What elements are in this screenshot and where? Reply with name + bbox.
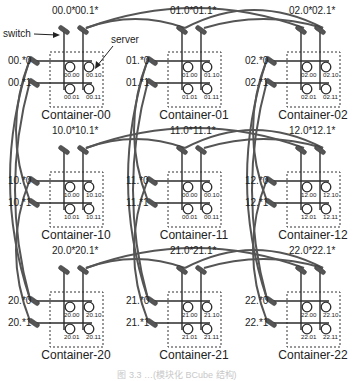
- server-label: 01.11: [204, 93, 220, 100]
- server-label: 21.11: [204, 333, 220, 340]
- server-label: 00.00: [64, 71, 80, 78]
- server-label: 20.00: [64, 311, 80, 318]
- server-label: 10.01: [64, 213, 80, 220]
- figure-caption: 图 3.3 …(模块化 BCube 结构): [117, 369, 236, 380]
- left-switch-label: 21.*1: [126, 317, 150, 328]
- top-switch-label: 22.1*: [312, 245, 335, 256]
- server-label: 02.00: [301, 71, 317, 78]
- top-switch-label: 02.0*: [289, 5, 312, 16]
- switch-arrowhead-icon: [53, 32, 60, 38]
- server-label: 00.10: [204, 191, 220, 198]
- row-link: [86, 19, 185, 28]
- top-switch-label: 10.0*: [52, 125, 75, 136]
- server-label: 10.10: [86, 191, 102, 198]
- server-label: 00.01: [64, 93, 80, 100]
- server-label: 22.11: [323, 333, 339, 340]
- left-switch-label: 00.*0: [8, 55, 32, 66]
- left-switch-label: 20.*1: [8, 317, 32, 328]
- server-label: 22.10: [323, 311, 339, 318]
- top-switch-label: 00.0*: [52, 5, 75, 16]
- left-switch-label: 22.*0: [245, 295, 269, 306]
- left-switch-label: 12.*0: [245, 175, 269, 186]
- container-name-label: Container-11: [160, 228, 229, 242]
- server-label: 02.11: [323, 93, 339, 100]
- container-21: 21.0021.1021.0121.1121.0*21.1*21.*021.*1…: [126, 245, 229, 362]
- container-name-label: Container-20: [41, 348, 111, 362]
- server-label: 01.00: [182, 71, 198, 78]
- server-label: 22.00: [301, 311, 317, 318]
- server-label: 12.00: [301, 191, 317, 198]
- left-switch-label: 11.*1: [126, 197, 149, 208]
- left-switch-label: 11.*0: [126, 175, 149, 186]
- server-label: 00.11: [204, 213, 220, 220]
- top-switch-label: 02.1*: [312, 5, 335, 16]
- top-switch-label: 01.0*: [170, 5, 193, 16]
- server-label: 02.10: [323, 71, 339, 78]
- left-switch-label: 02.*1: [245, 77, 269, 88]
- server-label: 00.11: [86, 93, 102, 100]
- left-switch-label: 20.*0: [8, 295, 32, 306]
- left-switch-label: 12.*1: [245, 197, 269, 208]
- container-20: 20.0020.1020.0120.1120.0*20.1*20.*020.*1…: [8, 245, 111, 362]
- server-label: 01.01: [182, 93, 198, 100]
- diagram-canvas: 00.0000.1000.0100.1100.0*00.1*00.*000.*1…: [0, 0, 355, 381]
- container-name-label: Container-01: [159, 108, 229, 122]
- top-switch-label: 12.1*: [312, 125, 335, 136]
- left-switch-label: 00.*1: [8, 77, 32, 88]
- switch-annotation-label: switch: [3, 28, 31, 39]
- server-label: 00.01: [182, 213, 198, 220]
- top-switch-label: 11.0*: [170, 125, 193, 136]
- left-switch-label: 02.*0: [245, 55, 269, 66]
- top-switch-label: 20.0*: [52, 245, 75, 256]
- server-label: 21.01: [182, 333, 198, 340]
- bcube-container-diagram: 00.0000.1000.0100.1100.0*00.1*00.*000.*1…: [0, 0, 355, 381]
- container-name-label: Container-22: [278, 348, 348, 362]
- top-switch-label: 22.0*: [289, 245, 312, 256]
- server-label: 12.11: [323, 213, 339, 220]
- top-switch-label: 11.1*: [193, 125, 216, 136]
- server-label: 10.11: [86, 213, 102, 220]
- server-label: 20.10: [86, 311, 102, 318]
- server-label: 21.00: [182, 311, 198, 318]
- left-switch-label: 21.*0: [126, 295, 150, 306]
- server-annotation-arrow: [97, 46, 113, 66]
- top-switch-label: 20.1*: [75, 245, 98, 256]
- server-annotation-label: server: [111, 34, 139, 45]
- container-10: 10.0010.1010.0110.1110.0*10.1*10.*010.*1…: [8, 125, 111, 242]
- server-label: 02.01: [301, 93, 317, 100]
- server-label: 10.00: [64, 191, 80, 198]
- container-name-label: Container-00: [41, 108, 111, 122]
- left-switch-label: 01.*0: [126, 55, 150, 66]
- left-switch-label: 01.*1: [126, 77, 150, 88]
- top-switch-label: 00.1*: [75, 5, 98, 16]
- server-label: 12.10: [323, 191, 339, 198]
- left-switch-label: 10.*0: [8, 175, 32, 186]
- top-switch-label: 01.1*: [193, 5, 216, 16]
- server-label: 12.01: [301, 213, 317, 220]
- container-name-label: Container-10: [41, 228, 111, 242]
- top-switch-label: 21.1*: [193, 245, 216, 256]
- left-switch-label: 10.*1: [8, 197, 32, 208]
- server-label: 00.10: [86, 71, 102, 78]
- left-switch-label: 22.*1: [245, 317, 269, 328]
- server-label: 01.10: [204, 71, 220, 78]
- container-name-label: Container-12: [278, 228, 348, 242]
- container-name-label: Container-21: [159, 348, 229, 362]
- server-label: 20.11: [86, 333, 102, 340]
- container-name-label: Container-02: [278, 108, 348, 122]
- server-label: 20.01: [64, 333, 80, 340]
- container-grid: 00.0000.1000.0100.1100.0*00.1*00.*000.*1…: [8, 5, 348, 362]
- top-switch-label: 21.0*: [170, 245, 193, 256]
- top-switch-label: 12.0*: [289, 125, 312, 136]
- server-label: 00.00: [182, 191, 198, 198]
- server-label: 22.01: [301, 333, 317, 340]
- inter-container-links: [10, 8, 323, 321]
- top-switch-label: 10.1*: [75, 125, 98, 136]
- server-label: 21.10: [204, 311, 220, 318]
- container-11: 00.0000.1000.0100.1111.0*11.1*11.*011.*1…: [126, 125, 229, 242]
